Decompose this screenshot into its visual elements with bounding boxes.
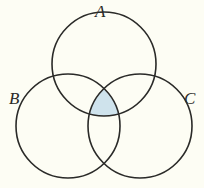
venn-diagram-svg (0, 0, 204, 188)
set-label-c: C (184, 90, 195, 107)
circle-c (88, 74, 192, 178)
set-label-b: B (9, 90, 19, 107)
set-label-a: A (95, 3, 105, 20)
venn-diagram-figure: A B C (0, 0, 204, 188)
circle-b (16, 74, 120, 178)
